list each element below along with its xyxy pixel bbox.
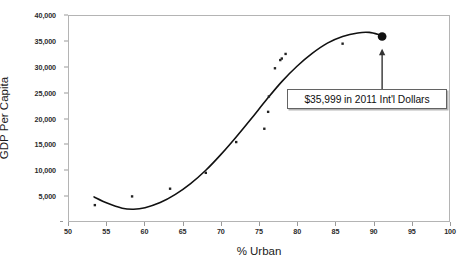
x-tick-mark [335,222,336,226]
x-tick-mark [144,222,145,226]
chart-figure: 5,00010,00015,00020,00025,00030,00035,00… [0,0,467,273]
x-tick-label: 70 [217,227,225,236]
x-tick-mark [221,222,222,226]
x-tick-mark [450,222,451,226]
x-tick-label: 75 [255,227,263,236]
x-tick-label: 90 [370,227,378,236]
x-tick-mark [412,222,413,226]
x-tick-mark [259,222,260,226]
x-tick-label: 85 [331,227,339,236]
x-axis-tick-labels: 50556065707580859095100 [0,0,467,273]
x-tick-label: 65 [179,227,187,236]
x-tick-mark [297,222,298,226]
x-tick-label: 80 [293,227,301,236]
annotation-callout-box: $35,999 in 2011 Int'l Dollars [287,89,447,109]
annotation-callout-text: $35,999 in 2011 Int'l Dollars [304,94,429,105]
x-tick-mark [183,222,184,226]
x-tick-label: 100 [444,227,456,236]
x-tick-mark [106,222,107,226]
x-tick-label: 60 [140,227,148,236]
x-tick-label: 55 [102,227,110,236]
x-tick-label: 50 [64,227,72,236]
x-tick-mark [374,222,375,226]
x-axis-title: % Urban [237,245,282,257]
x-tick-label: 95 [408,227,416,236]
x-tick-mark [68,222,69,226]
